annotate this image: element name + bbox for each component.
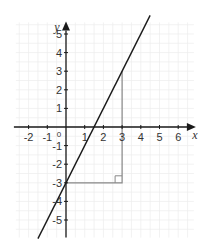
y-tick-label: -5 bbox=[52, 214, 62, 226]
x-axis-label: x bbox=[191, 128, 198, 142]
y-tick-label: 1 bbox=[56, 102, 62, 114]
y-tick-label: -4 bbox=[52, 195, 62, 207]
x-tick-label: 3 bbox=[119, 131, 125, 143]
x-tick-label: 2 bbox=[100, 131, 106, 143]
y-axis-label: y bbox=[53, 20, 60, 34]
x-tick-label: 4 bbox=[138, 131, 144, 143]
x-tick-label: 5 bbox=[156, 131, 162, 143]
y-tick-label: -3 bbox=[52, 177, 62, 189]
y-axis-arrow-icon bbox=[62, 21, 70, 30]
x-tick-label: 6 bbox=[175, 131, 181, 143]
y-tick-label: -2 bbox=[52, 158, 62, 170]
x-tick-label: -2 bbox=[24, 131, 34, 143]
origin-label: 0 bbox=[57, 130, 62, 139]
x-tick-label: 1 bbox=[82, 131, 88, 143]
right-angle-marker bbox=[115, 176, 122, 183]
y-tick-label: -1 bbox=[52, 140, 62, 152]
y-tick-label: 3 bbox=[56, 65, 62, 77]
linear-graph: -2-112345654321-1-2-3-4-50xy bbox=[0, 0, 205, 249]
y-tick-label: 4 bbox=[56, 47, 62, 59]
labels: -2-112345654321-1-2-3-4-50xy bbox=[24, 20, 199, 226]
grid bbox=[16, 22, 194, 237]
y-tick-label: 2 bbox=[56, 84, 62, 96]
x-tick-label: -1 bbox=[42, 131, 52, 143]
